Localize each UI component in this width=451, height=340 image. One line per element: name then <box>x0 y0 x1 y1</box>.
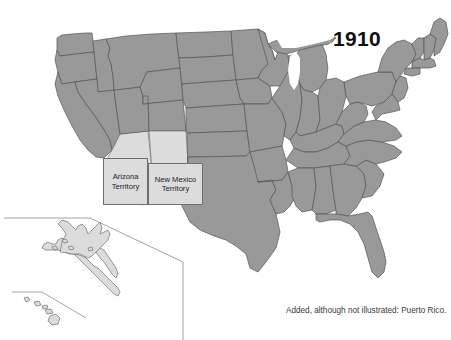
territory-hawaii-bigisland <box>48 314 60 325</box>
state-south-dakota <box>179 55 236 84</box>
state-north-carolina <box>344 140 402 166</box>
state-nebraska <box>182 80 244 108</box>
territory-arizona-text: ArizonaTerritory <box>112 172 139 191</box>
inset-frame-hawaii-diagonal <box>42 292 86 318</box>
state-florida <box>316 212 386 278</box>
territory-hawaii-kauai <box>24 297 30 302</box>
territory-arizona-line1: Arizona <box>113 172 139 181</box>
territory-hawaii-oahu <box>34 301 41 306</box>
footnote-text: Added, although not illustrated: Puerto … <box>286 307 446 315</box>
territory-new-mexico-text: New MexicoTerritory <box>155 175 196 194</box>
map-figure: .st{fill:#999999;stroke:#555555;stroke-w… <box>0 0 451 340</box>
territory-hawaii-molokai <box>42 305 48 309</box>
contiguous-states-group <box>55 18 448 278</box>
state-connecticut <box>404 68 420 76</box>
alaska-hawaii-inset-group <box>4 218 183 340</box>
territory-label-new-mexico: New MexicoTerritory <box>148 163 203 205</box>
territory-alaska-island-d <box>88 247 93 251</box>
state-north-dakota <box>176 31 233 58</box>
united-states-map: .st{fill:#999999;stroke:#555555;stroke-w… <box>0 0 451 340</box>
state-kansas <box>186 104 247 133</box>
state-mississippi <box>288 168 316 212</box>
state-georgia <box>330 164 366 216</box>
territory-new-mexico-line1: New Mexico <box>155 175 196 184</box>
territory-hawaii-maui <box>45 309 53 314</box>
territory-arizona-line2: Territory <box>112 182 139 191</box>
year-label: 1910 <box>333 28 381 49</box>
territory-label-arizona: ArizonaTerritory <box>103 158 148 205</box>
territory-new-mexico-line2: Territory <box>162 184 189 193</box>
